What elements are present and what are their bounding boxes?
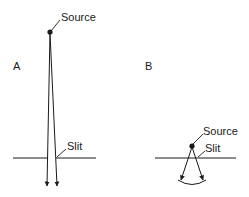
- ray-b-right: [192, 147, 203, 180]
- slit-b-leader: [198, 151, 205, 157]
- panel-a: A Source Slit: [13, 11, 96, 186]
- source-b-leader: [193, 134, 203, 144]
- ray-b-left: [181, 147, 192, 180]
- diffraction-diagram: A Source Slit B Source Slit: [0, 0, 249, 197]
- wavefront-arc-b: [178, 180, 206, 185]
- panel-b: B Source Slit: [145, 60, 238, 185]
- panel-a-label: A: [13, 60, 21, 72]
- slit-b-label: Slit: [205, 142, 220, 154]
- ray-a-right: [50, 33, 57, 186]
- slit-a-label: Slit: [67, 140, 82, 152]
- source-a-label: Source: [61, 11, 96, 23]
- source-b-label: Source: [203, 125, 238, 137]
- ray-a-left: [47, 33, 50, 186]
- source-a-leader: [51, 20, 60, 31]
- panel-b-label: B: [145, 60, 152, 72]
- slit-a-leader: [57, 149, 66, 157]
